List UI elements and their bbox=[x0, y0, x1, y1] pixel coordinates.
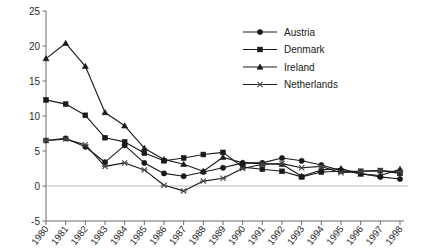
x-axis: 1980198119821983198419851986198719881989… bbox=[29, 221, 405, 247]
data-point-x-marker bbox=[298, 165, 304, 170]
data-point-square-marker bbox=[258, 47, 263, 52]
data-point-x-marker bbox=[257, 82, 263, 87]
line-chart: -505101520251980198119821983198419851986… bbox=[0, 0, 421, 252]
data-point-x-marker bbox=[180, 188, 186, 193]
data-point-square-marker bbox=[181, 156, 186, 161]
data-point-circle-marker bbox=[181, 174, 186, 179]
data-point-x-marker bbox=[220, 176, 226, 181]
y-tick-label: 0 bbox=[34, 181, 40, 192]
data-point-circle-marker bbox=[299, 158, 304, 163]
x-tick-label: 1995 bbox=[324, 223, 346, 246]
data-point-square-marker bbox=[280, 169, 285, 174]
data-point-x-marker bbox=[200, 179, 206, 184]
x-tick-label: 1998 bbox=[383, 223, 405, 246]
x-tick-label: 1994 bbox=[304, 223, 326, 246]
y-tick-label: 10 bbox=[29, 111, 41, 122]
x-tick-label: 1985 bbox=[127, 223, 149, 246]
x-tick-label: 1982 bbox=[68, 223, 90, 246]
x-tick-label: 1987 bbox=[167, 223, 189, 246]
x-tick-label: 1993 bbox=[285, 223, 307, 246]
x-tick-label: 1984 bbox=[108, 223, 130, 246]
data-point-triangle-marker bbox=[122, 123, 128, 128]
y-axis: -50510152025 bbox=[29, 6, 46, 227]
x-tick-label: 1997 bbox=[363, 223, 385, 246]
x-tick-label: 1992 bbox=[265, 223, 287, 246]
legend-label: Ireland bbox=[284, 62, 315, 73]
data-point-circle-marker bbox=[161, 171, 166, 176]
y-tick-label: 25 bbox=[29, 6, 41, 17]
data-point-x-marker bbox=[121, 160, 127, 165]
data-point-square-marker bbox=[260, 167, 265, 172]
x-tick-label: 1983 bbox=[88, 223, 110, 246]
legend-item-denmark[interactable]: Denmark bbox=[243, 44, 326, 55]
data-point-square-marker bbox=[142, 151, 147, 156]
x-tick-label: 1989 bbox=[206, 223, 228, 246]
data-point-square-marker bbox=[63, 102, 68, 107]
x-tick-label: 1988 bbox=[186, 223, 208, 246]
data-point-circle-marker bbox=[142, 160, 147, 165]
legend: AustriaDenmarkIrelandNetherlands bbox=[243, 27, 338, 91]
chart-canvas: -505101520251980198119821983198419851986… bbox=[0, 0, 421, 252]
data-point-x-marker bbox=[141, 167, 147, 172]
y-tick-label: 15 bbox=[29, 76, 41, 87]
x-tick-label: 1996 bbox=[344, 223, 366, 246]
data-point-triangle-marker bbox=[63, 40, 69, 45]
legend-label: Denmark bbox=[284, 44, 326, 55]
legend-label: Austria bbox=[284, 27, 316, 38]
data-point-square-marker bbox=[83, 113, 88, 118]
data-point-circle-marker bbox=[397, 176, 402, 181]
legend-item-austria[interactable]: Austria bbox=[243, 27, 316, 38]
data-point-square-marker bbox=[44, 98, 49, 103]
y-tick-label: 5 bbox=[34, 146, 40, 157]
legend-item-ireland[interactable]: Ireland bbox=[243, 62, 315, 73]
data-point-circle-marker bbox=[279, 155, 284, 160]
x-tick-label: 1991 bbox=[245, 223, 267, 246]
x-tick-label: 1990 bbox=[226, 223, 248, 246]
data-point-x-marker bbox=[161, 183, 167, 188]
data-point-circle-marker bbox=[220, 165, 225, 170]
x-tick-label: 1986 bbox=[147, 223, 169, 246]
y-tick-label: 20 bbox=[29, 41, 41, 52]
data-point-square-marker bbox=[201, 152, 206, 157]
legend-label: Netherlands bbox=[284, 79, 338, 90]
data-point-circle-marker bbox=[257, 29, 262, 34]
data-point-square-marker bbox=[122, 140, 127, 145]
data-point-square-marker bbox=[103, 135, 108, 140]
legend-item-netherlands[interactable]: Netherlands bbox=[243, 79, 338, 90]
data-point-triangle-marker bbox=[102, 110, 108, 115]
x-tick-label: 1980 bbox=[29, 223, 51, 246]
y-tick-label: -5 bbox=[31, 216, 40, 227]
x-tick-label: 1981 bbox=[49, 223, 71, 246]
